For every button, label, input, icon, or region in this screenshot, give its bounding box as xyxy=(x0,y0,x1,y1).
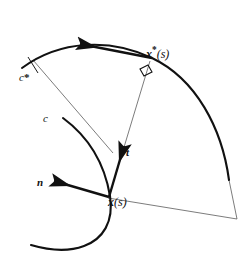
label-x-star-arg: (s) xyxy=(157,47,170,61)
label-tangent-vector: t xyxy=(126,147,129,158)
label-x-of-s: x(s) xyxy=(108,196,127,208)
curve-offset-diagram xyxy=(0,0,252,261)
label-c-star-star: * xyxy=(24,71,30,83)
figure-background xyxy=(0,0,252,261)
label-c-text: c xyxy=(43,112,48,124)
label-x-star-of-s: x*(s) xyxy=(146,46,169,60)
label-x-arg: (s) xyxy=(114,195,127,209)
label-normal-vector: n xyxy=(37,177,43,188)
label-c: c xyxy=(43,113,48,124)
label-c-star: c* xyxy=(19,72,29,83)
